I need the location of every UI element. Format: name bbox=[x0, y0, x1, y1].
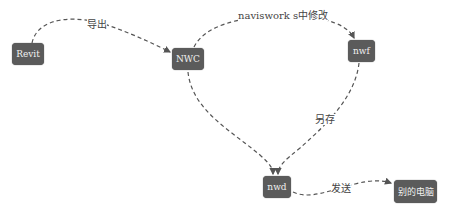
node-nwc: NWC bbox=[172, 48, 204, 70]
node-other-pc: 别的电脑 bbox=[394, 180, 437, 203]
edge-label-modify: naviswork s中修改 bbox=[238, 10, 328, 21]
node-nwf: nwf bbox=[348, 40, 375, 62]
edge-label-send: 发送 bbox=[331, 183, 351, 194]
edge-label-save-as: 另存 bbox=[315, 114, 335, 125]
node-nwd: nwd bbox=[263, 176, 291, 198]
edge-nwc-nwd bbox=[188, 72, 273, 174]
edge-label-export: 导出 bbox=[87, 19, 107, 30]
node-revit: Revit bbox=[12, 43, 44, 65]
edges-layer bbox=[0, 0, 450, 213]
